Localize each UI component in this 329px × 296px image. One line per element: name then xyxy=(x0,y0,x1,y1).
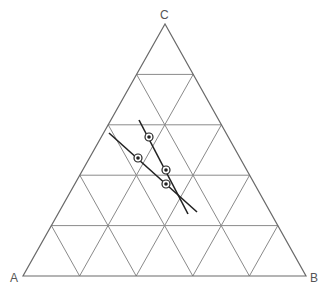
grid-line xyxy=(249,226,277,276)
grid-line xyxy=(136,125,221,276)
ternary-diagram xyxy=(0,0,329,296)
data-point xyxy=(145,133,153,141)
triangle-outline xyxy=(23,24,306,276)
grid-line xyxy=(51,226,79,276)
data-point xyxy=(134,154,142,162)
vertex-label-b: B xyxy=(310,272,318,284)
data-point xyxy=(162,166,170,174)
vertex-label-a: A xyxy=(10,272,18,284)
vertex-label-c: C xyxy=(160,9,169,21)
data-point xyxy=(162,180,170,188)
